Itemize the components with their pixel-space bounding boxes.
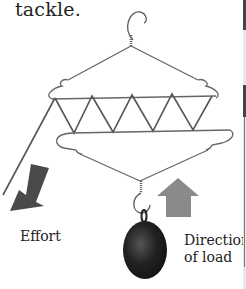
weight-ball-icon xyxy=(123,221,167,279)
load-arrow-icon xyxy=(157,178,199,217)
rope-zigzag xyxy=(55,94,212,133)
top-hanger-icon xyxy=(49,46,218,99)
direction-label-line2: of load xyxy=(184,249,246,266)
effort-label: Effort xyxy=(20,228,61,245)
page-edge xyxy=(243,0,246,289)
direction-label-line1: Direction xyxy=(184,232,246,249)
bottom-hanger-icon xyxy=(57,130,233,181)
direction-label: Direction of load xyxy=(184,232,246,266)
